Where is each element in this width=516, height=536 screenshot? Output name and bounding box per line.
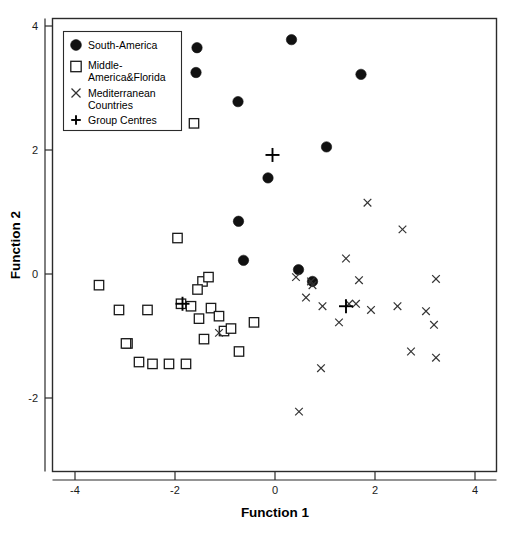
point-filled-circle [263, 173, 273, 183]
x-tick-label-4: 4 [472, 484, 478, 496]
legend-open-square-icon [71, 61, 81, 71]
y-tick-label-neg2: -2 [28, 392, 38, 404]
point-open-square [173, 233, 182, 242]
point-open-square [143, 305, 152, 314]
point-filled-circle [286, 34, 296, 44]
point-open-square [94, 280, 103, 289]
point-open-square [199, 334, 208, 343]
point-filled-circle [293, 264, 303, 274]
point-open-square [234, 347, 243, 356]
point-open-square [226, 324, 235, 333]
y-tick-label-2: 2 [32, 144, 38, 156]
y-tick-label-4: 4 [32, 20, 38, 32]
point-filled-circle [233, 216, 243, 226]
point-open-square [121, 339, 130, 348]
y-tick-label-0: 0 [32, 268, 38, 280]
point-open-square [214, 311, 223, 320]
point-filled-circle [191, 67, 201, 77]
plot-canvas: 4 2 0 -2 -4 -2 0 2 4 Function 1 Function… [0, 0, 516, 536]
legend-label-mediterranean-line1: Mediterranean [88, 87, 156, 99]
point-filled-circle [233, 96, 243, 106]
point-open-square [148, 359, 157, 368]
point-filled-circle [321, 142, 331, 152]
point-open-square [134, 357, 143, 366]
legend-label-mediterranean-line2: Countries [88, 99, 133, 111]
point-open-square [204, 272, 213, 281]
legend-label-south-america: South-America [88, 39, 158, 51]
legend-label-middle-america-line2: America&Florida [88, 71, 166, 83]
point-open-square [181, 359, 190, 368]
point-open-square [114, 305, 123, 314]
x-tick-label-0: 0 [272, 484, 278, 496]
scatter-plot-figure: 4 2 0 -2 -4 -2 0 2 4 Function 1 Function… [0, 0, 516, 536]
legend-label-middle-america-line1: Middle- [88, 59, 123, 71]
point-filled-circle [192, 43, 202, 53]
x-tick-label-neg4: -4 [70, 484, 80, 496]
x-axis-title: Function 1 [241, 505, 310, 520]
legend-filled-circle-icon [71, 40, 82, 51]
point-open-square [164, 359, 173, 368]
point-filled-circle [238, 255, 248, 265]
point-open-square [194, 314, 203, 323]
y-axis-title: Function 2 [8, 211, 23, 279]
x-tick-label-2: 2 [372, 484, 378, 496]
point-open-square [189, 119, 198, 128]
point-open-square [193, 285, 202, 294]
legend-label-group-centres: Group Centres [88, 114, 157, 126]
point-filled-circle [356, 69, 366, 79]
point-open-square [249, 318, 258, 327]
x-tick-label-neg2: -2 [170, 484, 180, 496]
legend: South-America Middle- America&Florida Me… [64, 32, 182, 131]
